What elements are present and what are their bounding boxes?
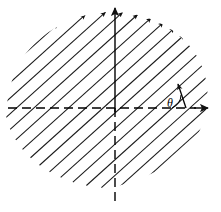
field-arrow (10, 15, 137, 130)
angle-marker-group: θ (167, 84, 186, 110)
hatched-arrow-field (4, 12, 220, 188)
theta-label: θ (167, 96, 173, 110)
field-arrow (14, 24, 58, 64)
field-arrow (118, 96, 219, 187)
field-arrow (73, 60, 208, 182)
field-arrow (40, 35, 185, 166)
field-arrow (101, 83, 217, 188)
field-arrow (16, 18, 151, 140)
vector-field-diagram: θ (0, 0, 221, 212)
axis-group (8, 8, 208, 205)
figure-root: θ (0, 0, 221, 212)
field-arrow (166, 136, 210, 176)
field-arrow (61, 51, 202, 178)
field-arrow (6, 12, 122, 117)
field-arrow (5, 15, 85, 87)
field-arrow (139, 113, 219, 185)
field-arrow (86, 71, 213, 186)
field-arrow (4, 12, 105, 103)
field-arrow (31, 28, 175, 158)
theta-arc-icon (172, 95, 181, 108)
field-arrow (23, 23, 164, 150)
theta-direction-vector (178, 84, 186, 108)
